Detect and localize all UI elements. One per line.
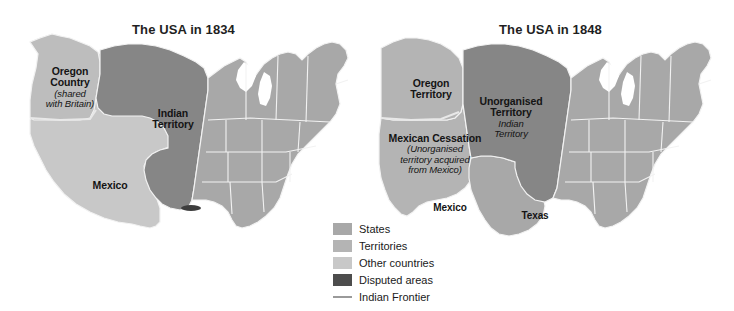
map-panel-1834: The USA in 1834 — [0, 0, 367, 311]
region-eastern-states-1834 — [192, 42, 348, 228]
legend-item-states: States — [333, 221, 461, 237]
legend-line-indian-frontier-icon — [333, 291, 352, 303]
legend-label-territories: Territories — [359, 240, 407, 252]
usa-territorial-maps-figure: The USA in 1834 — [0, 0, 734, 311]
region-eastern-states-1848 — [553, 42, 711, 228]
region-mexican-cessation-1848 — [379, 104, 473, 216]
region-oregon-territory-1848 — [381, 38, 463, 120]
legend-item-other-countries: Other countries — [333, 255, 461, 271]
legend-label-states: States — [359, 223, 390, 235]
disputed-area-marker-1834 — [181, 205, 201, 211]
region-oregon-country-1834 — [30, 34, 100, 120]
legend-item-indian-frontier: Indian Frontier — [333, 289, 461, 305]
map-legend: States Territories Other countries Dispu… — [333, 221, 461, 306]
legend-swatch-other-countries-icon — [333, 257, 352, 269]
legend-swatch-territories-icon — [333, 240, 352, 252]
legend-swatch-states-icon — [333, 223, 352, 235]
map-graphic-1834 — [0, 0, 367, 311]
legend-label-disputed-areas: Disputed areas — [359, 274, 433, 286]
legend-swatch-disputed-areas-icon — [333, 274, 352, 286]
legend-label-indian-frontier: Indian Frontier — [359, 291, 430, 303]
legend-item-disputed-areas: Disputed areas — [333, 272, 461, 288]
legend-item-territories: Territories — [333, 238, 461, 254]
legend-label-other-countries: Other countries — [359, 257, 434, 269]
